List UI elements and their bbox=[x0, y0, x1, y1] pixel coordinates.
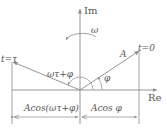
angle-arc-phi bbox=[98, 77, 102, 90]
t0-label: t=0 bbox=[138, 43, 155, 53]
phasor-t0 bbox=[80, 51, 139, 90]
phasor-label: A bbox=[119, 49, 127, 59]
phi-label: φ bbox=[104, 73, 111, 83]
phasor-diagram: Im Re ω A t=0 t=τ φ ωτ+φ Acos(ωτ+φ) Acos… bbox=[0, 0, 167, 139]
tau-label: t=τ bbox=[1, 54, 18, 64]
projection-left-label: Acos(ωτ+φ) bbox=[23, 103, 79, 113]
omega-tau-phi-label: ωτ+φ bbox=[47, 69, 74, 79]
im-axis-label: Im bbox=[84, 5, 98, 16]
re-axis-label: Re bbox=[148, 92, 162, 103]
projection-right-label: Acos φ bbox=[90, 103, 122, 113]
omega-label: ω bbox=[91, 25, 99, 35]
